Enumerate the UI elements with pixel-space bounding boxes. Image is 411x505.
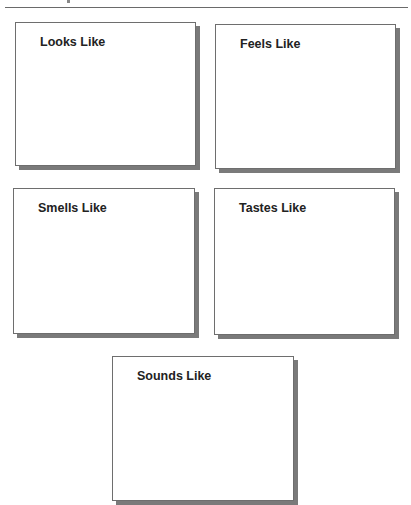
cut-off-header-glyph	[67, 0, 70, 3]
card-title: Tastes Like	[239, 201, 306, 215]
card-sounds-like: Sounds Like	[112, 356, 294, 501]
card-feels-like: Feels Like	[215, 24, 396, 169]
card-smells-like: Smells Like	[13, 188, 195, 334]
card-title: Smells Like	[38, 201, 107, 215]
card-title: Sounds Like	[137, 369, 211, 383]
card-looks-like: Looks Like	[15, 22, 196, 166]
card-tastes-like: Tastes Like	[214, 188, 395, 335]
card-title: Looks Like	[40, 35, 105, 49]
card-title: Feels Like	[240, 37, 300, 51]
header-rule	[5, 7, 408, 8]
